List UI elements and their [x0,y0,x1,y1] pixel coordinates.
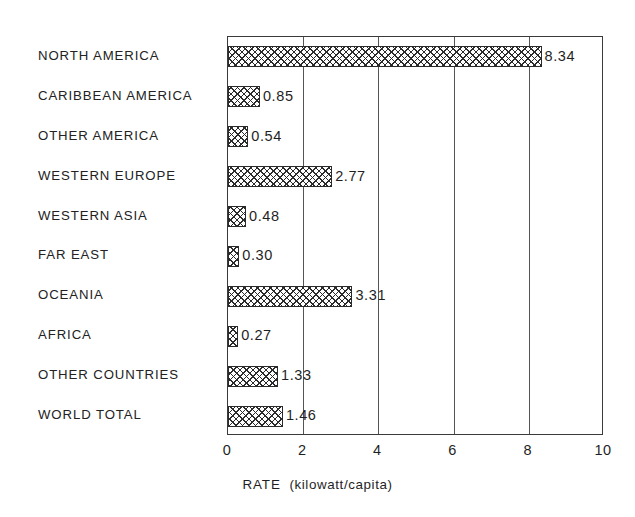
x-tick-label: 8 [524,443,533,458]
bar-value-label: 0.54 [251,129,282,144]
bar [228,246,239,267]
bar [228,406,283,427]
gridline-4 [378,37,379,434]
bar-value-label: 8.34 [545,49,576,64]
category-label: AFRICA [38,328,92,341]
category-label: CARIBBEAN AMERICA [38,89,193,102]
bar [228,206,246,227]
category-label: OTHER AMERICA [38,129,159,142]
bar-value-label: 0.48 [249,209,280,224]
bar [228,126,248,147]
x-tick-label: 6 [448,443,457,458]
category-label: WESTERN ASIA [38,209,148,222]
bar [228,326,238,347]
category-label: WESTERN EUROPE [38,169,176,182]
bar [228,86,260,107]
bar [228,366,278,387]
bar-chart-figure: NORTH AMERICACARIBBEAN AMERICAOTHER AMER… [0,0,635,517]
bar-value-label: 0.30 [242,248,273,263]
category-label-column: NORTH AMERICACARIBBEAN AMERICAOTHER AMER… [38,36,223,435]
bar-value-label: 3.31 [355,288,386,303]
gridline-8 [529,37,530,434]
x-axis-title-unit: (kilowatt/capita) [289,477,392,492]
x-axis-title-main: RATE [242,477,280,492]
x-tick-label: 10 [594,443,611,458]
category-label: OCEANIA [38,288,104,301]
category-label: NORTH AMERICA [38,49,159,62]
bar-value-label: 0.27 [241,328,272,343]
category-label: WORLD TOTAL [38,408,142,421]
bar-value-label: 0.85 [263,89,294,104]
bar [228,166,332,187]
gridline-6 [454,37,455,434]
category-label: FAR EAST [38,248,109,261]
x-tick-label: 0 [223,443,232,458]
x-tick-label: 4 [373,443,382,458]
x-axis-title: RATE (kilowatt/capita) [0,477,635,492]
bar [228,286,352,307]
bar-value-label: 1.46 [286,408,317,423]
bar-value-label: 2.77 [335,169,366,184]
category-label: OTHER COUNTRIES [38,368,179,381]
bar [228,46,542,67]
x-tick-label: 2 [298,443,307,458]
bar-value-label: 1.33 [281,368,312,383]
